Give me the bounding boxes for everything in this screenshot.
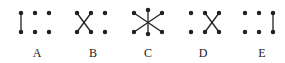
figure-d bbox=[189, 11, 220, 33]
figure-options-diagram: A B C D E bbox=[0, 0, 285, 63]
figure-b bbox=[75, 11, 106, 33]
label-d: D bbox=[199, 46, 208, 60]
label-b: B bbox=[89, 46, 97, 60]
figure-c bbox=[132, 8, 163, 35]
figure-a bbox=[19, 11, 50, 33]
figure-e bbox=[243, 11, 274, 33]
label-a: A bbox=[33, 46, 42, 60]
label-c: C bbox=[144, 46, 152, 60]
label-e: E bbox=[258, 46, 265, 60]
